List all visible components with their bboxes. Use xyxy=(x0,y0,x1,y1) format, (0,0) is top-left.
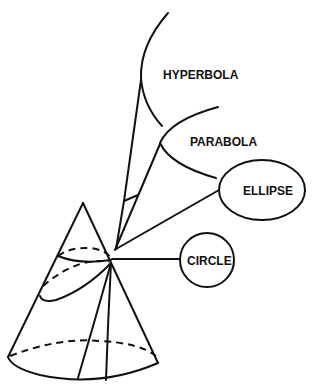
parabola-node: PARABOLA xyxy=(160,107,257,178)
circle-node: CIRCLE xyxy=(180,233,234,287)
parabola-label: PARABOLA xyxy=(190,135,257,149)
cone-base-back xyxy=(10,340,156,356)
line-to-parabola xyxy=(115,144,160,250)
ellipse-node: ELLIPSE xyxy=(219,160,305,220)
connector-lines xyxy=(112,80,219,259)
circle-section-back xyxy=(58,248,111,258)
connector-join xyxy=(116,201,124,249)
hyperbola-node: HYPERBOLA xyxy=(141,13,239,126)
line-to-hyperbola xyxy=(124,80,141,201)
conic-sections-diagram: HYPERBOLA PARABOLA ELLIPSE CIRCLE xyxy=(0,0,319,391)
cone xyxy=(8,203,158,380)
ellipse-label: ELLIPSE xyxy=(243,184,293,198)
circle-label: CIRCLE xyxy=(187,254,232,268)
hyperbola-label: HYPERBOLA xyxy=(163,68,239,82)
cone-left-side xyxy=(8,203,83,357)
